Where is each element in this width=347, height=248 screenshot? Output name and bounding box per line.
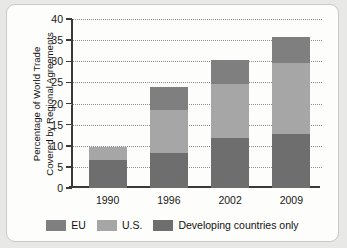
y-axis-tick-label: 5 [57,162,63,173]
y-axis-tick [66,61,72,63]
x-axis-tick-label: 2009 [272,195,310,206]
bar-segment [89,160,127,188]
y-axis-tick [66,82,72,84]
x-axis-tick-label: 2002 [211,195,249,206]
y-axis-tick-label: 0 [57,183,63,194]
legend-swatch-icon [46,220,66,231]
bar-segment [150,110,188,154]
legend-label: EU [71,220,86,231]
legend-item[interactable]: U.S. [97,220,142,231]
legend-label: Developing countries only [178,220,298,231]
bar-segment [272,37,310,63]
bar-1990[interactable] [89,147,127,188]
y-axis-tick-label: 10 [51,141,63,152]
y-axis-tick-label: 25 [51,77,63,88]
y-axis-tick-label: 20 [51,98,63,109]
bar-segment [150,87,188,110]
bar-segment [211,60,249,84]
y-axis-tick [66,39,72,41]
y-axis-tick [66,166,72,168]
chart-figure: Percentage of World Trade Covered by Reg… [6,4,339,242]
y-axis-tick [66,124,72,126]
bar-segment [272,63,310,134]
bar-segment [211,84,249,138]
y-axis-tick [66,18,72,20]
legend-item[interactable]: Developing countries only [153,220,298,231]
x-axis-tick-label: 1990 [89,195,127,206]
chart-legend: EUU.S.Developing countries only [7,220,338,231]
legend-label: U.S. [122,220,142,231]
y-axis-tick-label: 30 [51,56,63,67]
bar-1996[interactable] [150,87,188,188]
bar-segment [150,153,188,188]
legend-swatch-icon [97,220,117,231]
bar-segment [211,138,249,188]
bar-segment [89,147,127,160]
gridline [71,19,322,20]
bar-segment [272,134,310,188]
legend-swatch-icon [153,220,173,231]
plot-area: 0510152025303540 1990199620022009 [71,19,316,188]
y-axis-tick-label: 40 [51,14,63,25]
y-axis-tick-label: 35 [51,35,63,46]
bar-2009[interactable] [272,37,310,188]
y-axis-tick [66,187,72,189]
y-axis-tick [66,103,72,105]
legend-item[interactable]: EU [46,220,86,231]
bar-2002[interactable] [211,60,249,188]
y-axis-tick-label: 15 [51,119,63,130]
y-axis-tick [66,145,72,147]
x-axis-tick-label: 1996 [150,195,188,206]
y-axis-title-line-1: Percentage of World Trade [30,32,43,175]
